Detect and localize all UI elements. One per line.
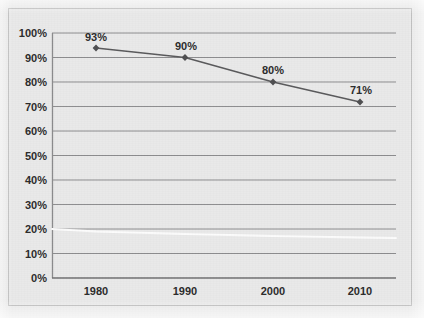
y-tick-50: 50%: [25, 150, 47, 162]
gridlines: [52, 33, 396, 254]
y-tick-60: 60%: [25, 125, 47, 137]
x-tick-1990: 1990: [173, 285, 197, 297]
x-tick-2000: 2000: [261, 285, 285, 297]
chart-screenshot: 93% 90% 80% 71% 100% 90% 80% 70% 60% 50%…: [0, 0, 424, 318]
data-labels: 93% 90% 80% 71%: [85, 31, 372, 96]
data-label-1980: 93%: [85, 31, 107, 43]
y-axis-tick-labels: 100% 90% 80% 70% 60% 50% 40% 30% 20% 10%…: [19, 27, 47, 284]
y-tick-40: 40%: [25, 174, 47, 186]
primary-series-line: [96, 48, 360, 102]
data-point-marker-1980[interactable]: [93, 45, 100, 52]
x-tick-2010: 2010: [348, 285, 372, 297]
y-tick-20: 20%: [25, 223, 47, 235]
y-tick-70: 70%: [25, 101, 47, 113]
secondary-series-line: [52, 229, 396, 238]
y-tick-90: 90%: [25, 52, 47, 64]
line-chart: 93% 90% 80% 71% 100% 90% 80% 70% 60% 50%…: [0, 0, 424, 318]
y-tick-100: 100%: [19, 27, 47, 39]
y-tick-10: 10%: [25, 248, 47, 260]
data-label-2010: 71%: [350, 84, 372, 96]
series-primary-series: [93, 45, 364, 106]
data-label-2000: 80%: [262, 64, 284, 76]
data-point-marker-2000[interactable]: [270, 79, 277, 86]
data-point-marker-1990[interactable]: [182, 54, 189, 61]
y-tick-80: 80%: [25, 76, 47, 88]
data-point-marker-2010[interactable]: [357, 99, 364, 106]
data-label-1990: 90%: [175, 40, 197, 52]
y-tick-30: 30%: [25, 199, 47, 211]
series-secondary-series: [52, 229, 396, 238]
y-tick-0: 0%: [31, 272, 47, 284]
x-axis-tick-labels: 1980 1990 2000 2010: [84, 285, 372, 297]
x-tick-1980: 1980: [84, 285, 108, 297]
